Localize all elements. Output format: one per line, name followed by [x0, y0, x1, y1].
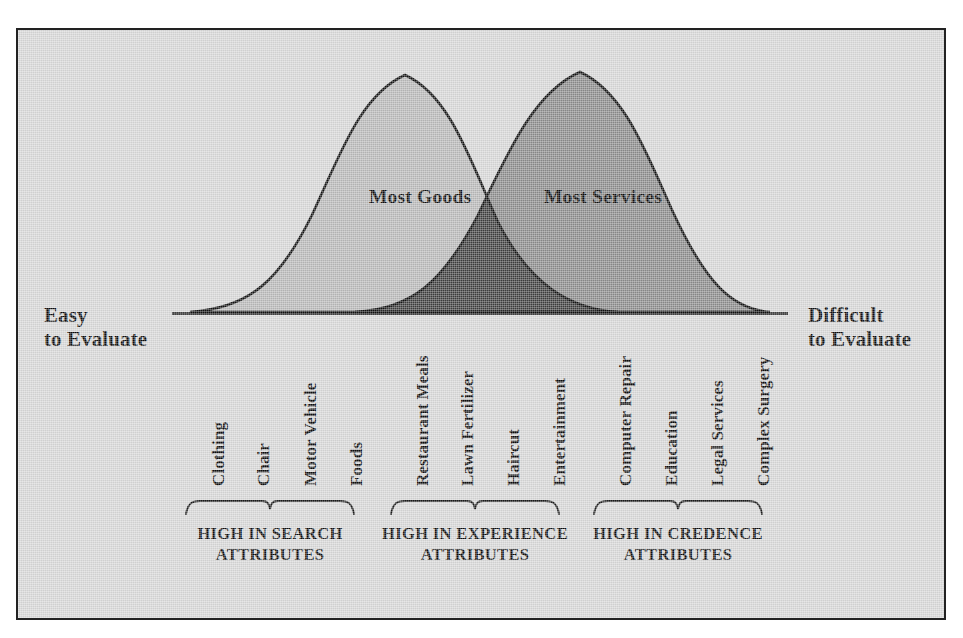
easy-to-evaluate-label: Easy to Evaluate: [44, 304, 147, 351]
bracket-search: [186, 501, 354, 514]
category-label-computer-repair: Computer Repair: [616, 356, 636, 486]
category-label-complex-surgery: Complex Surgery: [754, 357, 774, 486]
figure-stage: Easy to Evaluate Difficult to Evaluate M…: [0, 0, 963, 638]
category-label-entertainment: Entertainment: [550, 378, 570, 486]
most-services-label: Most Services: [544, 186, 662, 208]
category-label-legal-services: Legal Services: [708, 380, 728, 486]
category-label-restaurant-meals: Restaurant Meals: [413, 356, 433, 487]
figure-panel: Easy to Evaluate Difficult to Evaluate M…: [16, 28, 946, 620]
group-caption-2: HIGH IN CREDENCE ATTRIBUTES: [563, 524, 793, 565]
category-label-education: Education: [662, 410, 682, 486]
group-caption-0: HIGH IN SEARCH ATTRIBUTES: [155, 524, 385, 565]
category-label-foods: Foods: [347, 442, 367, 486]
category-label-chair: Chair: [254, 443, 274, 486]
bracket-credence: [594, 501, 762, 514]
group-brackets: [186, 501, 762, 514]
category-label-motor-vehicle: Motor Vehicle: [301, 383, 321, 486]
difficult-to-evaluate-label: Difficult to Evaluate: [808, 304, 911, 351]
category-label-lawn-fertilizer: Lawn Fertilizer: [458, 371, 478, 486]
bracket-experience: [391, 501, 559, 514]
category-label-clothing: Clothing: [209, 422, 229, 486]
group-caption-1: HIGH IN EXPERIENCE ATTRIBUTES: [360, 524, 590, 565]
most-goods-label: Most Goods: [369, 186, 471, 208]
category-label-haircut: Haircut: [504, 429, 524, 486]
